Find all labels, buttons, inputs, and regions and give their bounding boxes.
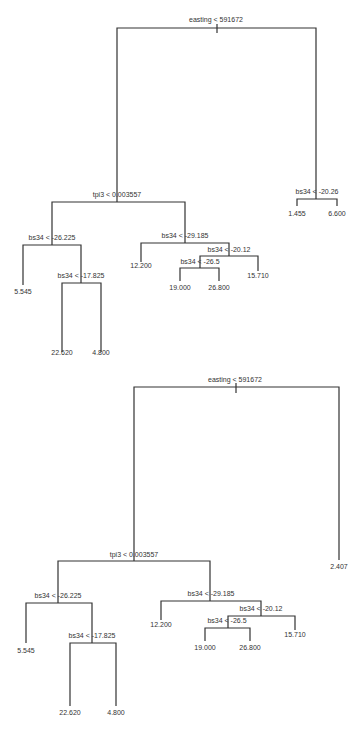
- split-label: bs34 < -29.185: [188, 590, 235, 597]
- split-label: tpi3 < 0.003557: [110, 551, 159, 559]
- split-label: easting < 591672: [189, 16, 243, 24]
- node-root: easting < 591672: [134, 376, 339, 561]
- regression-tree-diagrams: easting < 591672 tpi3 < 0.003557 bs34 < …: [0, 0, 360, 729]
- leaf-value: 19.000: [194, 644, 216, 651]
- node-bs34-17825: bs34 < -17.825: [58, 272, 105, 352]
- node-bs34-265: bs34 < -26.5: [205, 617, 250, 641]
- leaf-value: 2.407: [330, 563, 348, 570]
- leaf-value: 4.800: [92, 349, 110, 356]
- split-label: bs34 < -26.5: [207, 617, 246, 624]
- node-bs34-17825: bs34 < -17.825: [69, 632, 116, 706]
- leaf-value: 12.200: [150, 621, 172, 628]
- leaf-value: 26.800: [239, 644, 261, 651]
- leaf-value: 4.800: [107, 709, 125, 716]
- leaf-value: 1.455: [288, 210, 306, 217]
- split-label: bs34 < -29.185: [162, 232, 209, 239]
- leaf-value: 6.600: [328, 210, 346, 217]
- leaf-value: 26.800: [208, 284, 230, 291]
- leaf-value: 15.710: [284, 631, 306, 638]
- leaf-value: 22.620: [59, 709, 81, 716]
- split-label: easting < 591672: [208, 376, 262, 384]
- leaf-value: 19.000: [169, 284, 191, 291]
- leaf-value: 12.200: [130, 262, 152, 269]
- tree-bottom: easting < 591672 2.407 tpi3 < 0.003557 b…: [17, 376, 348, 716]
- node-bs34-265: bs34 < -26.5: [180, 258, 220, 281]
- split-label: bs34 < -26.225: [29, 234, 76, 241]
- split-label: tpi3 < 0.003557: [93, 191, 142, 199]
- tree-top: easting < 591672 tpi3 < 0.003557 bs34 < …: [14, 16, 346, 356]
- node-root: easting < 591672: [117, 16, 316, 202]
- split-label: bs34 < -20.26: [295, 188, 338, 195]
- split-label: bs34 < -17.825: [58, 272, 105, 279]
- split-label: bs34 < -20.12: [207, 246, 250, 253]
- leaf-value: 5.545: [14, 288, 32, 295]
- split-label: bs34 < -26.225: [35, 592, 82, 599]
- node-bs34-2026: bs34 < -20.26: [295, 188, 338, 206]
- leaf-value: 22.620: [51, 349, 73, 356]
- split-label: bs34 < -20.12: [239, 605, 282, 612]
- leaf-value: 15.710: [247, 272, 269, 279]
- split-label: bs34 < -26.5: [180, 258, 219, 265]
- split-label: bs34 < -17.825: [69, 632, 116, 639]
- leaf-value: 5.545: [17, 647, 35, 654]
